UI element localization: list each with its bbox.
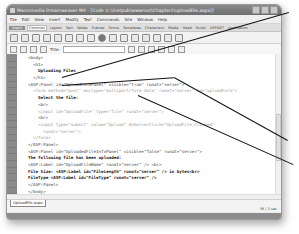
gutter-line [7, 75, 17, 82]
menu-help[interactable]: Help [158, 17, 167, 22]
date-icon[interactable] [142, 34, 150, 42]
menu-commands[interactable]: Commands [97, 17, 120, 22]
file-tab-uploadfile[interactable]: UploadFile.aspx [10, 200, 46, 207]
tab-layout[interactable]: Layout [49, 26, 63, 30]
flash-icon[interactable] [98, 34, 106, 42]
file-management-icon[interactable] [128, 46, 135, 53]
code-line[interactable]: <br> [23, 102, 275, 109]
code-line[interactable]: <ASP:Panel id="UploadFormPanel" visible=… [23, 82, 275, 89]
app-icon [10, 8, 15, 13]
tab-forms[interactable]: Forms [107, 26, 120, 30]
code-line[interactable]: </ASP:Panel> [23, 182, 275, 189]
code-line[interactable]: <h1> [23, 62, 275, 69]
gutter-line [7, 88, 17, 95]
gutter-line [7, 174, 17, 181]
live-data-icon[interactable] [40, 46, 47, 53]
anchor-icon[interactable] [32, 34, 40, 42]
view-options-icon[interactable] [178, 46, 185, 53]
gutter-line [7, 101, 17, 108]
image-icon[interactable] [65, 34, 73, 42]
comment-icon[interactable] [164, 34, 172, 42]
tag-chooser-icon[interactable] [175, 34, 183, 42]
maximize-icon[interactable] [261, 6, 269, 14]
gutter-line [7, 168, 17, 175]
window-controls [252, 6, 278, 14]
gutter-line [7, 128, 17, 135]
image-placeholder-icon[interactable] [76, 34, 84, 42]
code-text[interactable]: <body><h1>Uploading Files</h1><ASP:Panel… [17, 54, 275, 194]
insert-bar-label[interactable]: Insert [9, 26, 25, 30]
title-label: Title: [50, 47, 60, 52]
table-icon[interactable] [43, 34, 51, 42]
code-line[interactable]: The following file has been uploaded: [23, 155, 275, 162]
tab-media[interactable]: Media [167, 26, 180, 30]
minimize-icon[interactable] [252, 6, 260, 14]
gutter-line [7, 68, 17, 75]
tab-tables[interactable]: Tables [76, 26, 89, 30]
rollover-icon[interactable] [109, 34, 117, 42]
email-link-icon[interactable] [21, 34, 29, 42]
gutter-line [7, 62, 17, 69]
gutter-line [7, 154, 17, 161]
code-line[interactable]: <form method="post" enctype="multipart/f… [23, 88, 275, 95]
menu-window[interactable]: Window [137, 17, 153, 22]
gutter-line [7, 95, 17, 102]
tab-templates[interactable]: Templates [122, 26, 142, 30]
code-line[interactable]: <ASP:Panel id="UploadedFileInfoPanel" vi… [23, 149, 275, 156]
code-line[interactable]: FileType <ASP:Label id="FileType" runat=… [23, 175, 275, 182]
tab-script[interactable]: Script [195, 26, 207, 30]
code-line[interactable]: File Size: <ASP:Label id="FileLength" ru… [23, 169, 275, 176]
navigation-bar-icon[interactable] [87, 34, 95, 42]
gutter-line [7, 181, 17, 188]
code-line[interactable]: <body> [23, 55, 275, 62]
window-title: Macromedia Dreamweaver MX - [Code (c:\in… [17, 8, 252, 13]
code-line[interactable]: <br> [23, 115, 275, 122]
tab-text[interactable]: Text [65, 26, 74, 30]
code-line[interactable]: runat="server"> [23, 129, 275, 136]
preview-icon[interactable] [138, 46, 145, 53]
line-number-gutter [7, 54, 17, 194]
gutter-line [7, 148, 17, 155]
properties-panel-bar[interactable]: Properties [7, 213, 281, 219]
menu-insert[interactable]: Insert [49, 17, 60, 22]
vertical-scrollbar[interactable] [275, 54, 281, 194]
code-line[interactable]: <ASP:Label id="UploadFileName" runat="se… [23, 162, 275, 169]
split-view-icon[interactable] [20, 46, 27, 53]
title-input[interactable] [63, 46, 125, 53]
menu-view[interactable]: View [34, 17, 44, 22]
code-view-icon[interactable] [10, 46, 17, 53]
design-view-icon[interactable] [30, 46, 37, 53]
menu-text[interactable]: Text [84, 17, 92, 22]
tab-characters[interactable]: Characters [144, 26, 165, 30]
code-line[interactable]: </ASP:Panel> [23, 142, 275, 149]
tabular-data-icon[interactable] [153, 34, 161, 42]
insert-icons-row [7, 32, 281, 44]
tab-aspnet[interactable]: ASP.NET [209, 26, 225, 30]
download-size: 3K / 1 sec [260, 207, 277, 211]
tab-common[interactable]: Common [27, 25, 47, 31]
menu-file[interactable]: File [10, 17, 17, 22]
title-bar: Macromedia Dreamweaver MX - [Code (c:\in… [7, 5, 281, 15]
dreamweaver-window: Macromedia Dreamweaver MX - [Code (c:\in… [6, 4, 282, 220]
status-bar: 3K / 1 sec [7, 207, 281, 212]
gutter-line [7, 121, 17, 128]
fireworks-html-icon[interactable] [120, 34, 128, 42]
code-line[interactable]: <input type="submit" value="Upload" OnSe… [23, 122, 275, 129]
menu-modify[interactable]: Modify [65, 17, 78, 22]
layer-icon[interactable] [54, 34, 62, 42]
tab-frames[interactable]: Frames [91, 26, 106, 30]
code-editor[interactable]: <body><h1>Uploading Files</h1><ASP:Panel… [7, 54, 281, 194]
horizontal-rule-icon[interactable] [131, 34, 139, 42]
gutter-line [7, 108, 17, 115]
gutter-line [7, 135, 17, 142]
tab-head[interactable]: Head [181, 26, 192, 30]
menu-bar: File Edit View Insert Modify Text Comman… [7, 15, 281, 24]
gutter-line [7, 115, 17, 122]
gutter-line [7, 82, 17, 89]
gutter-line [7, 55, 17, 62]
code-line[interactable]: Uploading Files [23, 68, 275, 75]
menu-site[interactable]: Site [124, 17, 132, 22]
menu-edit[interactable]: Edit [22, 17, 30, 22]
hyperlink-icon[interactable] [10, 34, 18, 42]
close-icon[interactable] [270, 6, 278, 14]
